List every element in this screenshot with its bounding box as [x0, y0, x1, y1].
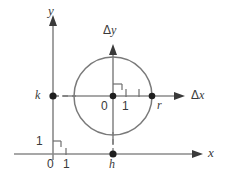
delta-symbol-x: Δ: [191, 88, 199, 102]
delta-y-axis-label: Δy: [103, 24, 116, 36]
point-radius-r: [149, 93, 156, 100]
delta-x-axis-arrowhead: [174, 92, 185, 100]
y-axis-unit-label: 1: [36, 135, 43, 147]
delta-y-axis-arrowhead: [109, 44, 117, 55]
center-y-label: k: [35, 89, 40, 101]
x-axis-label: x: [208, 146, 214, 159]
delta-x-axis-label: Δx: [191, 89, 204, 101]
point-center-k: [49, 92, 56, 99]
delta-x-unit-label: 1: [122, 100, 129, 112]
delta-x-variable: x: [199, 88, 204, 102]
origin-label-xy: 0: [47, 158, 54, 170]
origin-label-delta: 0: [101, 100, 108, 112]
radius-label: r: [157, 99, 162, 111]
point-delta-origin: [110, 93, 117, 100]
y-axis: [49, 15, 57, 160]
x-axis-unit-label: 1: [63, 158, 70, 170]
x-axis-arrowhead: [192, 150, 203, 158]
delta-y-variable: y: [111, 23, 116, 37]
y-axis-label: y: [48, 4, 54, 17]
delta-symbol-y: Δ: [103, 23, 111, 37]
circle-translation-diagram: y x Δy Δx 0 1 1 0 1 r h k: [0, 0, 228, 180]
center-x-label: h: [109, 158, 115, 170]
